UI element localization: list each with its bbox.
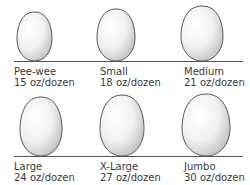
egg-weight-label: 15 oz/dozen bbox=[14, 77, 75, 88]
egg-size-label: Small bbox=[100, 66, 128, 77]
egg-weight-label: 30 oz/dozen bbox=[184, 172, 245, 183]
egg-icon bbox=[97, 9, 135, 61]
egg-icon bbox=[100, 95, 144, 156]
egg-icon bbox=[182, 94, 230, 156]
egg-weight-label: 27 oz/dozen bbox=[100, 172, 161, 183]
egg-icon bbox=[20, 97, 62, 156]
egg-size-label: Pee-wee bbox=[14, 66, 56, 77]
egg-icon bbox=[181, 6, 223, 61]
egg-size-label: Large bbox=[14, 161, 42, 172]
egg-weight-label: 21 oz/dozen bbox=[184, 77, 245, 88]
egg-weight-label: 18 oz/dozen bbox=[100, 77, 161, 88]
egg-size-label: X-Large bbox=[100, 161, 138, 172]
egg-size-label: Jumbo bbox=[184, 161, 216, 172]
egg-weight-label: 24 oz/dozen bbox=[14, 172, 75, 183]
egg-size-label: Medium bbox=[184, 66, 224, 77]
egg-size-diagram bbox=[0, 0, 250, 185]
egg-icon bbox=[17, 12, 52, 61]
